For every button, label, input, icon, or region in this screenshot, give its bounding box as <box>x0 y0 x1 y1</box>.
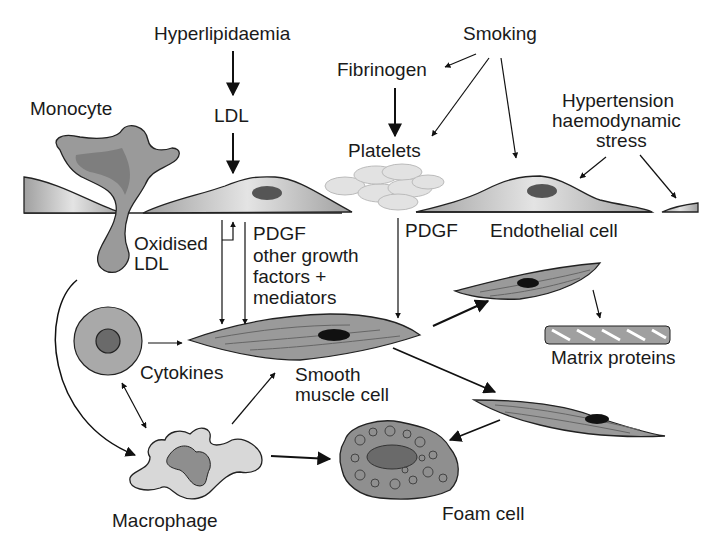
label-monocyte: Monocyte <box>30 98 112 119</box>
label-platelets: Platelets <box>348 140 421 161</box>
label-foam-cell: Foam cell <box>442 503 524 524</box>
matrix-proteins-fiber <box>545 326 670 344</box>
smooth-muscle-cell-migrating <box>474 400 665 437</box>
endothelial-nucleus-2 <box>527 184 557 198</box>
label-hypertension-3: stress <box>596 130 647 151</box>
label-oxidised-1: Oxidised <box>134 233 208 254</box>
macrophage-cell <box>130 428 262 499</box>
atherosclerosis-diagram: Hyperlipidaemia LDL Smoking Fibrinogen P… <box>0 0 710 553</box>
label-cytokines: Cytokines <box>140 362 223 383</box>
label-hypertension-1: Hypertension <box>562 90 674 111</box>
label-fibrinogen: Fibrinogen <box>337 59 427 80</box>
endothelial-cell-3 <box>662 203 698 212</box>
label-smooth-1: Smooth <box>295 364 360 385</box>
label-ldl: LDL <box>214 105 249 126</box>
smooth-muscle-cell-proliferating <box>455 263 600 299</box>
label-smoking: Smoking <box>463 23 537 44</box>
endothelial-cell-1 <box>143 177 352 213</box>
label-matrix-proteins: Matrix proteins <box>551 347 676 368</box>
label-pdgf-left-1: PDGF <box>253 223 306 244</box>
smooth-muscle-cell <box>189 314 420 360</box>
label-macrophage: Macrophage <box>112 510 218 531</box>
label-pdgf-left-3: factors + <box>253 266 326 287</box>
label-oxidised-2: LDL <box>134 253 169 274</box>
label-hyperlipidaemia: Hyperlipidaemia <box>154 23 291 44</box>
label-endothelial-cell: Endothelial cell <box>490 220 618 241</box>
label-pdgf-right: PDGF <box>405 220 458 241</box>
label-pdgf-left-4: mediators <box>253 287 336 308</box>
endothelial-nucleus-1 <box>252 186 282 200</box>
cytokines-cell <box>74 307 142 375</box>
label-hypertension-2: haemodynamic <box>552 110 681 131</box>
label-smooth-2: muscle cell <box>295 384 389 405</box>
platelets-cluster <box>325 164 444 210</box>
label-pdgf-left-2: other growth <box>253 245 359 266</box>
foam-cell <box>340 421 458 499</box>
